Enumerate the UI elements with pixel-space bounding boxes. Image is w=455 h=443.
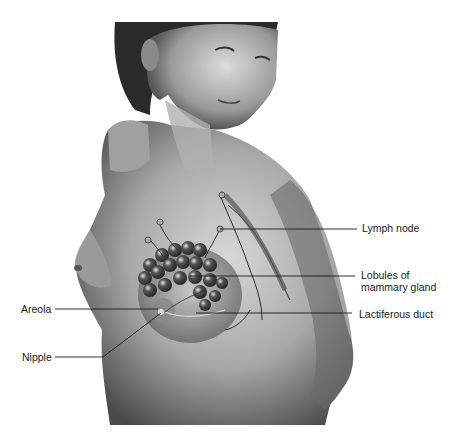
label-lactiferous-duct: Lactiferous duct: [359, 308, 433, 320]
label-lobules-line1: Lobules of: [361, 269, 409, 281]
label-areola: Areola: [21, 303, 51, 315]
label-nipple: Nipple: [22, 351, 52, 363]
label-lymph-node: Lymph node: [362, 222, 419, 234]
label-lobules-line2: mammary gland: [361, 281, 436, 293]
